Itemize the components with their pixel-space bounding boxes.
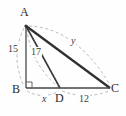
measure-label-bd: x <box>41 94 47 104</box>
vertex-label-a: A <box>20 6 29 18</box>
segment-ad <box>26 26 60 88</box>
vertex-label-c: C <box>111 82 119 94</box>
measure-label-ac: y <box>70 36 76 46</box>
right-angle-mark-b <box>26 82 32 88</box>
measure-label-dc: 12 <box>78 94 90 104</box>
arc-ab-measure <box>17 28 24 86</box>
measure-label-ab: 15 <box>7 44 19 54</box>
measure-label-ad: 17 <box>30 47 42 57</box>
geometry-figure: A B C D 15 17 y x 12 <box>0 0 126 116</box>
segment-ac <box>26 26 110 88</box>
vertex-label-d: D <box>55 92 64 104</box>
vertex-dot-a <box>24 24 27 27</box>
vertex-label-b: B <box>12 83 20 95</box>
